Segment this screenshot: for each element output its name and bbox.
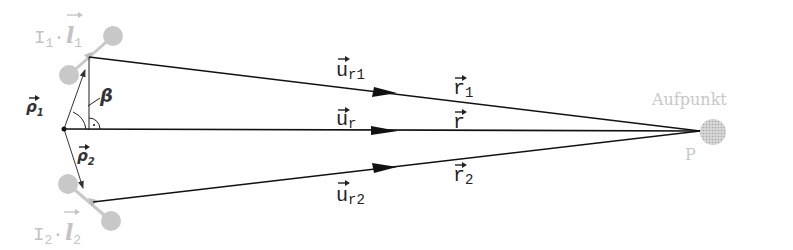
r2-label: r2 bbox=[453, 164, 473, 188]
point-p-label: P bbox=[685, 145, 696, 164]
ur1-label: ur1 bbox=[336, 59, 365, 83]
upper-current-label: I1· bbox=[34, 27, 65, 51]
point-p-circle bbox=[700, 119, 726, 145]
aufpunkt-caption: Aufpunkt bbox=[651, 90, 727, 109]
upper-element-end-circle bbox=[103, 26, 123, 46]
r2-line bbox=[93, 131, 700, 202]
lower-element-end-circle bbox=[101, 211, 121, 231]
r-label: r bbox=[453, 111, 465, 134]
beta-label: β bbox=[99, 85, 113, 106]
r1-line bbox=[89, 57, 700, 131]
ur-label: ur bbox=[336, 108, 356, 132]
right-angle-arc bbox=[89, 118, 100, 129]
ur2-label: ur2 bbox=[336, 184, 365, 208]
angle-beta-arc bbox=[73, 112, 86, 129]
ur-arrowhead bbox=[371, 126, 398, 135]
r1-label: r1 bbox=[453, 77, 473, 101]
lower-current-label: I2· bbox=[33, 224, 64, 248]
origin-dot bbox=[62, 127, 67, 132]
rho1-label: ρ1 bbox=[26, 98, 44, 118]
ur2-arrowhead bbox=[372, 163, 397, 173]
ur1-arrowhead bbox=[372, 87, 397, 97]
rho2-label: ρ2 bbox=[77, 147, 95, 167]
lower-length-label: l2 bbox=[65, 219, 81, 248]
upper-length-label: l1 bbox=[66, 22, 82, 51]
upper-element-start-circle bbox=[59, 65, 79, 85]
magnetic-field-diagram: I1· l1 I2· l2 ρ1 ρ2 β ur1 ur ur2 r1 r r2… bbox=[0, 0, 793, 250]
beta-leader-line bbox=[88, 98, 100, 106]
right-angle-dot bbox=[93, 124, 95, 126]
lower-element-start-circle bbox=[58, 174, 78, 194]
